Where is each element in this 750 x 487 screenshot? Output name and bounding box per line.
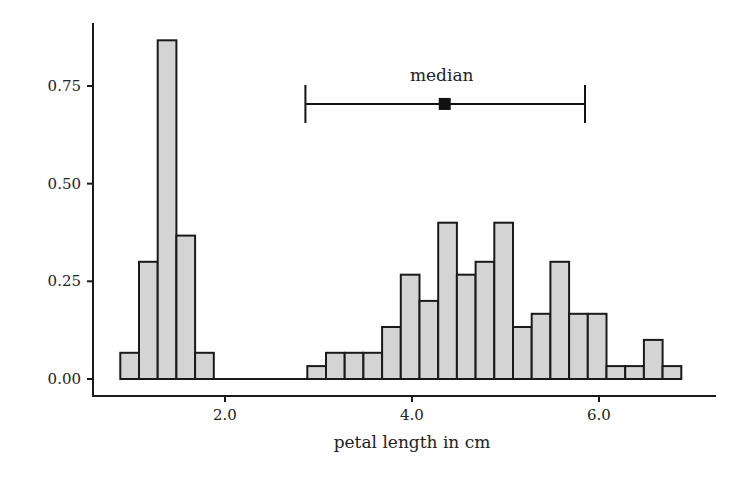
histogram-bar [363,353,382,379]
histogram-bar [195,353,214,379]
x-tick-label: 6.0 [587,406,611,424]
x-axis: 2.04.06.0 [92,396,716,424]
histogram-bar [307,366,326,379]
histogram-bar [532,314,551,379]
histogram-bar [438,223,457,379]
histogram-bar [158,40,177,379]
y-tick-label: 0.00 [48,370,81,388]
histogram-bar [401,275,420,379]
histogram-bar [569,314,588,379]
histogram-bar [550,262,569,379]
histogram-bar [176,236,195,379]
median-errorbar: median [305,65,585,123]
histogram-bar [588,314,607,379]
y-axis: 0.000.250.500.75 [48,23,93,397]
y-tick-label: 0.75 [48,77,81,95]
histogram-bar [476,262,495,379]
histogram-bar [663,366,682,379]
histogram-bar [513,327,532,379]
annotation-label: median [410,65,474,85]
chart-canvas: median 0.000.250.500.75 2.04.06.0 petal … [0,0,750,487]
histogram-chart: median 0.000.250.500.75 2.04.06.0 petal … [0,0,750,487]
histogram-bar [644,340,663,379]
histogram-bar [139,262,158,379]
statistic-annotations: median [305,65,585,123]
x-tick-label: 4.0 [400,406,424,424]
y-tick-label: 0.50 [48,175,81,193]
x-axis-title: petal length in cm [334,432,491,452]
y-tick-label: 0.25 [48,272,81,290]
histogram-bar [494,223,513,379]
histogram-bar [420,301,439,379]
histogram-bar [345,353,364,379]
histogram-bar [326,353,345,379]
x-tick-label: 2.0 [213,406,237,424]
histogram-bar [607,366,626,379]
median-square-marker [439,98,451,110]
histogram-bar [457,275,476,379]
histogram-bar [120,353,139,379]
histogram-bar [382,327,401,379]
histogram-bars [120,40,681,379]
histogram-bar [625,366,644,379]
